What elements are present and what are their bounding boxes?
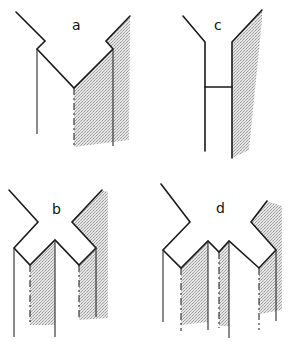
panel-label-a: a	[72, 17, 81, 33]
shading	[232, 10, 262, 158]
shading	[251, 201, 282, 314]
panel-c: c	[183, 10, 262, 158]
panel-b: b	[9, 190, 108, 337]
panel-d: d	[161, 184, 282, 338]
left-arm	[183, 16, 205, 151]
shading	[74, 16, 130, 147]
panel-label-c: c	[214, 17, 222, 33]
panel-label-d: d	[216, 200, 225, 216]
figure-canvas: a c b d	[0, 0, 291, 342]
panel-a: a	[16, 12, 130, 147]
shading	[219, 241, 229, 326]
panel-label-b: b	[52, 201, 61, 217]
